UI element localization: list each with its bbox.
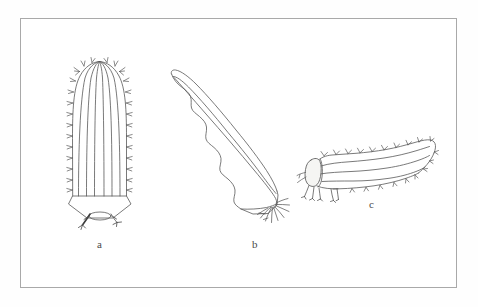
specimen-c-dorsal-setae (321, 137, 434, 156)
specimen-c-body-line-3 (322, 167, 425, 182)
specimen-b-lobed-margin (172, 74, 279, 214)
specimen-b-dorsal-margin (171, 70, 277, 191)
specimen-b-drawing (171, 70, 289, 223)
specimen-b-basal-filaments (258, 199, 290, 223)
specimen-a-rib-3 (95, 62, 100, 197)
specimen-a-body-outline (69, 62, 132, 219)
specimen-c-tail-curl (419, 153, 435, 173)
specimen-a-terminal-plate (89, 212, 111, 220)
figure-drawing-canvas (0, 0, 478, 307)
specimen-c-head-capsule (305, 158, 321, 186)
specimen-c-legs (302, 186, 339, 203)
panel-label-a: a (97, 238, 102, 250)
specimen-c-drawing (297, 137, 439, 203)
specimen-c-body-line-2 (320, 156, 430, 175)
panel-label-c: c (369, 198, 374, 210)
specimen-a-rib-2 (87, 62, 100, 197)
specimen-a-rib-5 (100, 62, 113, 197)
panel-label-b: b (252, 238, 258, 250)
specimen-a-rib-4 (100, 62, 105, 197)
specimen-b-midline (174, 78, 277, 205)
specimen-a-drawing (67, 58, 132, 230)
specimen-c-body-line-1 (321, 147, 430, 167)
specimen-c-lateral-setae (424, 151, 439, 172)
figure-root: a b c (0, 0, 478, 307)
